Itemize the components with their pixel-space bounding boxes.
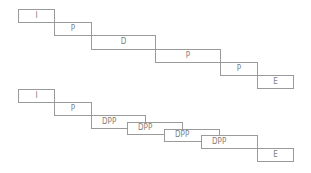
phase-box-p: P <box>54 102 92 116</box>
phase-box-i: I <box>18 89 55 103</box>
pipelined-timeline: I P DPP DPP DPP DPP E <box>0 0 311 173</box>
phase-box-dpp: DPP <box>201 135 258 149</box>
phase-box-e: E <box>257 148 294 162</box>
